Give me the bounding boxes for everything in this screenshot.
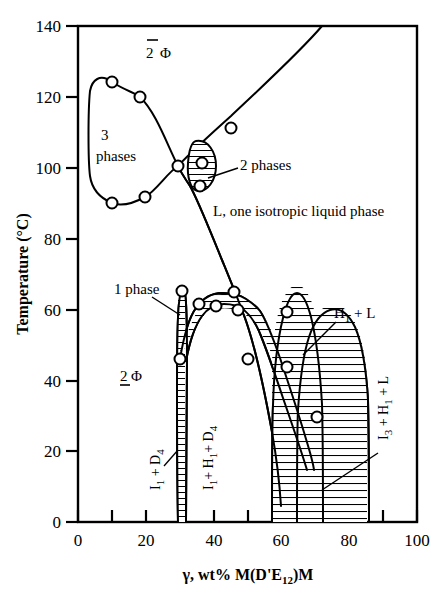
label-two-phase-overbar-digit: 2 bbox=[146, 45, 154, 61]
label-two-phase-underline-phi: Φ bbox=[131, 368, 142, 384]
data-point bbox=[175, 354, 186, 365]
label-three-phases-line2: phases bbox=[96, 148, 136, 164]
x-tick-label: 20 bbox=[138, 531, 155, 550]
label-h1-base: H bbox=[334, 305, 345, 321]
label-i3h1l-tail: + L bbox=[376, 376, 391, 399]
x-axis-title-sub: 12 bbox=[282, 574, 294, 586]
data-point bbox=[194, 299, 205, 310]
label-i1d4-join: + D bbox=[148, 455, 163, 480]
phase-diagram-figure: 140 120 100 80 60 40 20 0 0 20 40 60 80 … bbox=[0, 0, 444, 597]
data-point bbox=[177, 286, 188, 297]
data-point bbox=[211, 301, 222, 312]
data-point bbox=[233, 305, 244, 316]
x-tick-label: 80 bbox=[341, 531, 358, 550]
x-axis-tick-labels: 0 20 40 60 80 100 bbox=[74, 531, 430, 550]
label-i3h1l-mid: + H bbox=[376, 405, 391, 430]
data-point bbox=[226, 123, 237, 134]
y-tick-label: 40 bbox=[44, 372, 61, 391]
y-tick-label: 140 bbox=[36, 17, 62, 36]
label-two-phase-underline-digit: 2 bbox=[120, 368, 128, 384]
x-axis-title-wt: wt% M(D'E bbox=[194, 566, 282, 584]
y-axis-ticks bbox=[66, 26, 78, 522]
data-point bbox=[135, 92, 146, 103]
y-axis-tick-labels: 140 120 100 80 60 40 20 0 bbox=[36, 17, 62, 532]
label-i1h1d4-sub3: 4 bbox=[207, 425, 219, 431]
label-i1h1d4-tail: + D bbox=[201, 431, 216, 453]
label-isotropic-liquid: L, one isotropic liquid phase bbox=[213, 203, 385, 219]
phase-diagram-svg: 140 120 100 80 60 40 20 0 0 20 40 60 80 … bbox=[0, 0, 444, 597]
label-three-phases-line1: 3 bbox=[101, 127, 109, 143]
data-point bbox=[173, 161, 184, 172]
x-tick-label: 60 bbox=[273, 531, 290, 550]
y-tick-label: 80 bbox=[44, 230, 61, 249]
data-point bbox=[197, 158, 208, 169]
y-tick-label: 20 bbox=[44, 442, 61, 461]
y-tick-label: 100 bbox=[36, 159, 62, 178]
label-two-phases-callout: 2 phases bbox=[240, 157, 291, 173]
label-one-phase-callout: 1 phase bbox=[114, 281, 160, 297]
x-tick-label: 40 bbox=[206, 531, 223, 550]
label-two-phase-overbar-phi: Φ bbox=[160, 45, 171, 61]
y-tick-label: 120 bbox=[36, 88, 62, 107]
data-point bbox=[282, 307, 293, 318]
y-axis-title: Temperature (°C) bbox=[14, 213, 32, 334]
label-i1d4-sub2: 4 bbox=[154, 449, 166, 455]
x-axis-title-tail: )M bbox=[293, 566, 313, 584]
data-point bbox=[195, 181, 206, 192]
data-point bbox=[107, 198, 118, 209]
y-tick-label: 60 bbox=[44, 301, 61, 320]
label-i1h1d4-mid: + H bbox=[201, 458, 216, 480]
x-axis-title-gamma: γ, bbox=[182, 566, 194, 584]
svg-text:γ, wt% M(D'E12)M: γ, wt% M(D'E12)M bbox=[182, 566, 314, 586]
label-two-phase-underline: 2 Φ bbox=[120, 368, 142, 385]
data-point bbox=[229, 287, 240, 298]
data-point bbox=[140, 192, 151, 203]
y-tick-label: 0 bbox=[53, 513, 62, 532]
x-tick-label: 0 bbox=[74, 531, 83, 550]
label-h1-join: + L bbox=[350, 305, 375, 321]
data-point bbox=[107, 77, 118, 88]
data-point bbox=[282, 362, 293, 373]
x-tick-label: 100 bbox=[404, 531, 430, 550]
data-point bbox=[243, 354, 254, 365]
data-point bbox=[312, 412, 323, 423]
x-axis-title: γ, wt% M(D'E12)M bbox=[182, 566, 314, 586]
